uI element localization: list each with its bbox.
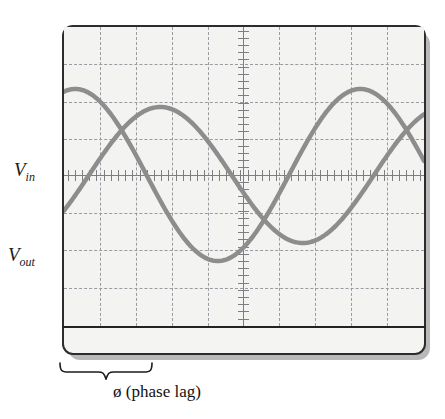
label-vin-subscript: in	[26, 170, 35, 184]
trace-vin	[64, 89, 424, 261]
label-vin-main: V	[14, 159, 26, 180]
bezel-divider	[62, 326, 426, 328]
label-vout-main: V	[8, 244, 20, 265]
label-vout-subscript: out	[20, 255, 35, 269]
phase-lag-brace-icon	[58, 362, 154, 380]
waveform-traces	[64, 27, 424, 326]
label-vin: Vin	[14, 159, 35, 185]
phase-lag-caption: ø (phase lag)	[62, 382, 252, 402]
oscilloscope-screen	[64, 27, 424, 326]
label-vout: Vout	[8, 244, 35, 270]
